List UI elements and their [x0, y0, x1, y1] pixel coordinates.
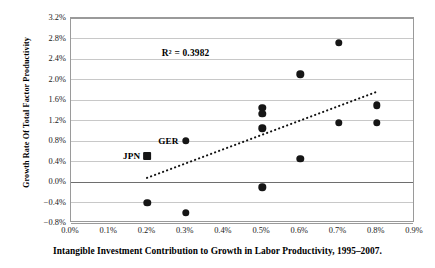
plot-area: JPNGER R² = 0.3982 [70, 17, 414, 222]
y-axis-tick-label: 2.0% [6, 74, 66, 83]
x-axis-tick-label: 0.0% [61, 226, 78, 235]
x-axis-tick-label: 0.5% [252, 226, 269, 235]
r-squared-annotation: R² = 0.3982 [162, 48, 210, 58]
x-axis-tick-label: 0.7% [329, 226, 346, 235]
x-axis-tick-label: 0.4% [214, 226, 231, 235]
y-axis-tick-label: 0.8% [6, 136, 66, 145]
y-axis-tick-label: 3.2% [6, 13, 66, 22]
trendline [71, 18, 413, 221]
y-axis-tick-label: 2.4% [6, 54, 66, 63]
scatter-chart: Growth Rate Of Total Factor Productivity… [0, 0, 435, 268]
y-axis-tick-label: 0.4% [6, 156, 66, 165]
y-axis-tick-label: 1.2% [6, 115, 66, 124]
x-axis-tick-label: 0.6% [291, 226, 308, 235]
x-axis-caption: Intangible Investment Contribution to Gr… [0, 246, 435, 256]
x-axis-tick-label: 0.3% [176, 226, 193, 235]
y-axis-tick-label: 2.8% [6, 33, 66, 42]
x-axis-tick-label: 0.9% [405, 226, 422, 235]
x-axis-tick-label: 0.2% [138, 226, 155, 235]
x-axis-tick-label: 0.8% [367, 226, 384, 235]
gridline [71, 223, 413, 224]
x-axis-tick-label: 0.1% [99, 226, 116, 235]
y-axis-tick-label: 0.0% [6, 177, 66, 186]
y-axis-tick-label: −0.4% [6, 197, 66, 206]
y-axis-tick-label: −0.8% [6, 218, 66, 227]
y-axis-tick-label: 1.6% [6, 95, 66, 104]
